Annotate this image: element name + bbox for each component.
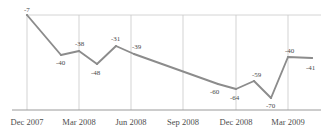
data-point-marker-0: [26, 14, 28, 16]
data-point-label: -41: [306, 65, 315, 72]
x-axis-tick-label: Jun 2008: [116, 118, 147, 127]
data-point-label: -59: [252, 72, 261, 79]
data-point-marker-1: [60, 54, 62, 56]
data-point-label: -31: [111, 36, 120, 43]
data-point-label: -70: [266, 103, 275, 110]
data-point-label: -7: [24, 7, 30, 14]
data-series-line: [27, 15, 312, 98]
data-point-marker-9: [270, 97, 272, 99]
x-axis-tick-label: Sep 2008: [167, 118, 199, 127]
data-point-marker-10: [287, 56, 289, 58]
data-point-marker-3: [96, 63, 98, 65]
x-axis-tick-label: Dec 2008: [220, 118, 253, 127]
data-point-label: -40: [285, 48, 294, 55]
line-chart: -7-40-38-48-31-39-60-64-59-70-40-41 Dec …: [0, 0, 326, 139]
data-point-marker-5: [133, 53, 135, 55]
data-point-markers: [26, 14, 313, 99]
data-point-label: -48: [91, 70, 100, 77]
data-point-marker-11: [311, 57, 313, 59]
x-axis-tick-label: Mar 2008: [62, 118, 95, 127]
x-axis-tick-label: Mar 2009: [271, 118, 304, 127]
data-point-marker-7: [235, 88, 237, 90]
data-point-label: -38: [75, 41, 84, 48]
x-axis-tick-label: Dec 2007: [11, 118, 44, 127]
data-point-label: -60: [210, 89, 219, 96]
data-point-marker-8: [253, 80, 255, 82]
data-point-label: -39: [132, 44, 141, 51]
data-point-marker-2: [78, 50, 80, 52]
data-point-label: -40: [56, 60, 65, 67]
data-point-marker-4: [115, 45, 117, 47]
data-point-label: -64: [230, 95, 239, 102]
data-point-marker-6: [217, 83, 219, 85]
